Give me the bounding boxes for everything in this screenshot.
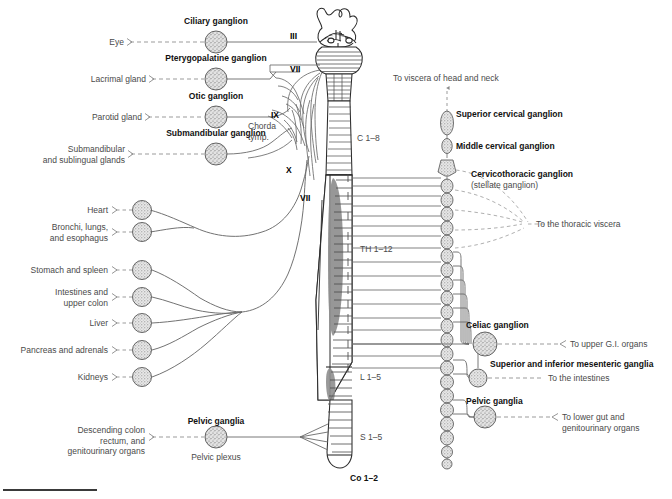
label-cranial-nerve-vii-lower: VII: [300, 193, 310, 203]
label-line-1: Descending colon: [30, 425, 145, 436]
label-line-1: Chorda: [248, 121, 294, 132]
label-celiac-ganglion: Celiac ganglion: [466, 320, 529, 330]
label-target-liver: Liver: [40, 318, 108, 328]
label-target-submandibular-glands: Submandibular and sublingual glands: [4, 144, 125, 165]
label-pelvic-plexus: Pelvic plexus: [166, 452, 266, 462]
label-superior-cervical-ganglion: Superior cervical ganglion: [456, 109, 563, 119]
label-target-stomach-spleen: Stomach and spleen: [10, 265, 108, 275]
figure-canvas: Ciliary ganglion Pterygopalatine ganglio…: [0, 0, 672, 499]
label-stellate-ganglion: (stellate ganglion): [471, 180, 538, 190]
label-line-2: upper colon: [20, 298, 108, 309]
label-target-parotid-gland: Parotid gland: [36, 112, 142, 122]
label-spinal-level-cervical: C 1–8: [357, 133, 380, 143]
label-target-bronchi-lungs-esophagus: Bronchi, lungs, and esophagus: [8, 222, 108, 243]
label-to-upper-gi-organs: To upper G.I. organs: [570, 339, 648, 349]
label-cranial-nerve-ix: IX: [271, 110, 279, 120]
label-target-kidneys: Kidneys: [30, 372, 108, 382]
label-pelvic-ganglia-right: Pelvic ganglia: [466, 396, 523, 406]
label-spinal-level-sacral: S 1–5: [360, 432, 382, 442]
label-cranial-nerve-iii: III: [290, 31, 297, 41]
label-line-2: rectum, and: [30, 436, 145, 447]
label-line-2: tymp.: [248, 132, 294, 143]
label-cervicothoracic-ganglion: Cervicothoracic ganglion: [471, 169, 573, 179]
label-line-2: and sublingual glands: [4, 155, 125, 166]
label-chorda-tympani: Chorda tymp.: [248, 121, 294, 142]
label-line-3: genitourinary organs: [30, 446, 145, 457]
label-cranial-nerve-x: X: [286, 165, 292, 175]
label-target-lacrimal-gland: Lacrimal gland: [40, 74, 146, 84]
label-line-2: genitourinary organs: [562, 423, 670, 434]
label-pelvic-ganglia-left: Pelvic ganglia: [166, 416, 266, 426]
label-spinal-level-lumbar: L 1–5: [360, 372, 381, 382]
label-otic-ganglion: Otic ganglion: [155, 91, 277, 101]
label-spinal-level-coccygeal: Co 1–2: [350, 473, 378, 483]
label-to-the-intestines: To the intestines: [548, 373, 609, 383]
label-line-2: and esophagus: [8, 233, 108, 244]
label-pterygopalatine-ganglion: Pterygopalatine ganglion: [130, 53, 302, 63]
label-target-descending-colon: Descending colon rectum, and genitourina…: [30, 425, 145, 457]
label-mesenteric-ganglia: Superior and inferior mesenteric ganglia: [490, 359, 653, 369]
label-line-1: Intestines and: [20, 287, 108, 298]
label-target-intestines-upper-colon: Intestines and upper colon: [20, 287, 108, 308]
label-target-heart: Heart: [20, 205, 108, 215]
label-line-1: Submandibular: [4, 144, 125, 155]
label-line-1: Bronchi, lungs,: [8, 222, 108, 233]
label-spinal-level-thoracic: TH 1–12: [360, 244, 393, 254]
label-middle-cervical-ganglion: Middle cervical ganglion: [456, 141, 555, 151]
label-ciliary-ganglion: Ciliary ganglion: [146, 16, 286, 26]
label-target-pancreas-adrenals: Pancreas and adrenals: [8, 345, 108, 355]
label-cranial-nerve-vii-upper: VII: [290, 64, 300, 74]
label-to-thoracic-viscera: To the thoracic viscera: [536, 219, 621, 229]
label-to-lower-gut: To lower gut and genitourinary organs: [562, 412, 670, 433]
label-to-viscera-head-neck: To viscera of head and neck: [393, 73, 499, 83]
label-line-1: To lower gut and: [562, 412, 670, 423]
label-target-eye: Eye: [20, 37, 124, 47]
